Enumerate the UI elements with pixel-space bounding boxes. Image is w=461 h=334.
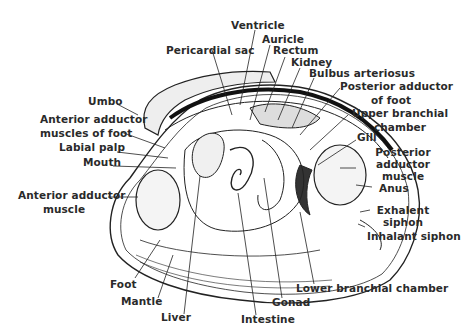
label-line: Upper branchial	[352, 107, 448, 119]
posterior-adductor-muscle	[314, 145, 366, 205]
label-exhalent-siphon: Exhalent siphon	[372, 204, 434, 228]
label-line: of foot	[340, 94, 442, 106]
label-mantle: Mantle	[121, 295, 162, 307]
label-line: Anterior adductor	[40, 113, 132, 125]
label-inhalant-siphon: Inhalant siphon	[367, 230, 461, 242]
label-posterior-adductor-of-foot: Posterior adductor of foot	[340, 80, 442, 106]
label-line: Anterior adductor	[18, 189, 110, 201]
label-line: muscles of foot	[40, 127, 132, 139]
label-mouth: Mouth	[83, 156, 121, 168]
label-gill: Gill	[357, 131, 377, 143]
label-anterior-adductor-muscles-of-foot: Anterior adductor muscles of foot	[40, 113, 132, 139]
label-line: siphon	[372, 216, 434, 228]
label-gonad: Gonad	[272, 296, 310, 308]
intestine	[230, 147, 253, 190]
gill	[296, 165, 312, 215]
label-labial-palp: Labial palp	[59, 141, 125, 153]
label-line: muscle	[372, 170, 434, 182]
label-anterior-adductor-muscle: Anterior adductor muscle	[18, 189, 110, 215]
label-posterior-adductor-muscle: Posterior adductor muscle	[372, 146, 434, 182]
label-line: adductor	[372, 158, 434, 170]
gonad	[258, 140, 284, 210]
anterior-adductor-muscle	[136, 170, 180, 230]
label-line: muscle	[18, 203, 110, 215]
label-umbo: Umbo	[88, 95, 123, 107]
label-rectum: Rectum	[273, 44, 318, 56]
label-line: Posterior adductor	[340, 80, 442, 92]
label-anus: Anus	[379, 182, 409, 194]
label-line: Exhalent	[372, 204, 434, 216]
label-line: Posterior	[372, 146, 434, 158]
label-bulbus-arteriosus: Bulbus arteriosus	[309, 67, 415, 79]
label-ventricle: Ventricle	[231, 19, 285, 31]
foot	[140, 240, 320, 256]
umbo	[144, 71, 275, 135]
label-upper-branchial-chamber: Upper branchial chamber	[352, 107, 448, 133]
label-foot: Foot	[110, 278, 137, 290]
label-liver: Liver	[161, 311, 191, 323]
label-pericardial-sac: Pericardial sac	[166, 44, 255, 56]
label-lower-branchial-chamber: Lower branchial chamber	[296, 282, 448, 294]
label-intestine: Intestine	[241, 313, 295, 325]
